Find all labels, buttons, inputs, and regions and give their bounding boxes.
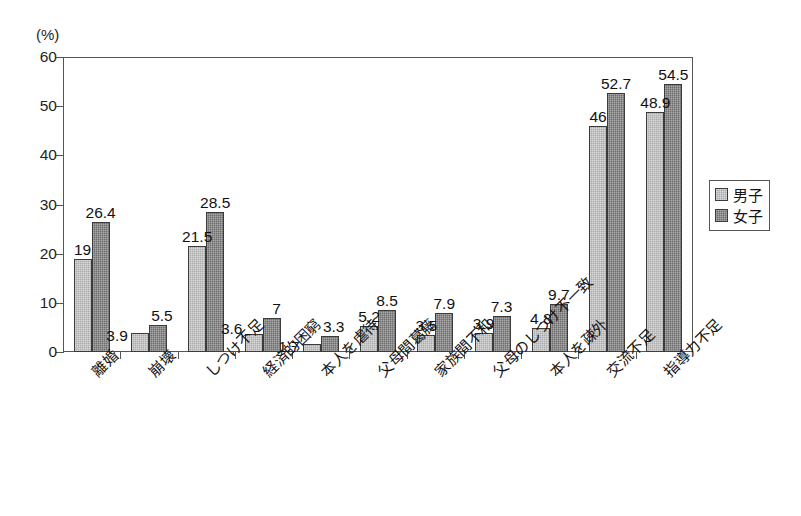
legend-entry-boys: 男子 [715,184,763,205]
bar-girls [607,93,625,352]
bar-chart: (%) 0102030405060 1926.43.95.521.528.53.… [0,0,801,516]
bar-boys [646,112,664,352]
y-axis-tick [56,254,64,255]
bar-value-label: 7.9 [433,295,455,313]
bar-value-label: 52.7 [601,75,631,93]
legend-swatch-girls-icon [715,209,728,222]
bar-value-label: 3.3 [323,318,345,336]
bar-value-label: 8.5 [376,292,398,310]
y-axis-tick [56,303,64,304]
bar-value-label: 46 [589,108,606,126]
bar-value-label: 3.9 [106,327,128,345]
bar-boys [188,246,206,352]
bar-value-label: 5.5 [151,307,173,325]
y-axis-tick [56,106,64,107]
legend-swatch-boys-icon [715,188,728,201]
y-axis-tick-label: 60 [11,48,57,66]
y-axis-tick-label: 40 [11,146,57,164]
bar-boys [74,259,92,352]
y-axis-unit-label: (%) [36,26,59,43]
y-axis-tick-label: 0 [11,343,57,361]
y-axis-tick-label: 20 [11,245,57,263]
y-axis-tick-label: 10 [11,294,57,312]
legend-label-girls: 女子 [733,205,763,226]
bar-girls [664,84,682,352]
y-axis-tick [56,205,64,206]
y-axis-tick-label: 30 [11,196,57,214]
legend: 男子 女子 [709,180,770,231]
bar-value-label: 7 [272,300,281,318]
y-axis-tick [56,57,64,58]
y-axis-tick-label: 50 [11,97,57,115]
bar-value-label: 28.5 [200,194,230,212]
y-axis-tick [56,155,64,156]
bar-value-label: 54.5 [658,66,688,84]
bar-value-label: 21.5 [182,228,212,246]
bar-boys [131,333,149,352]
legend-label-boys: 男子 [733,184,763,205]
bar-value-label: 26.4 [86,204,116,222]
y-axis-tick [56,352,64,353]
legend-entry-girls: 女子 [715,205,763,226]
bar-value-label: 48.9 [640,94,670,112]
bar-value-label: 19 [74,241,91,259]
bar-value-label: 7.3 [491,298,513,316]
